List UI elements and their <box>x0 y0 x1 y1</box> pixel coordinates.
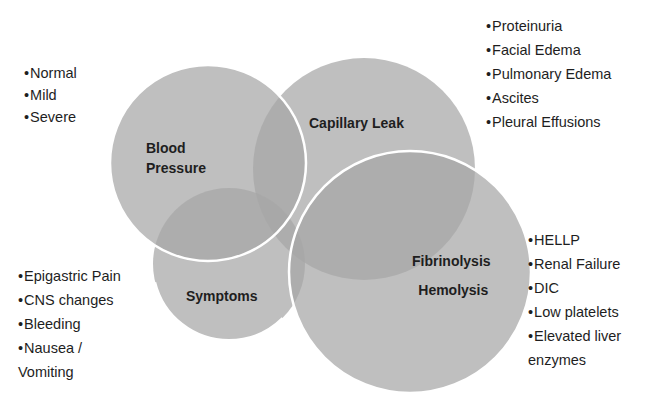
list-text: Proteinuria <box>492 18 562 34</box>
list-item: •Severe <box>24 106 77 128</box>
bullet-icon: • <box>24 109 29 125</box>
bullet-icon: • <box>486 66 491 82</box>
list-text: Nausea / <box>24 340 82 356</box>
bullet-icon: • <box>486 90 491 106</box>
list-item: •DIC <box>528 276 621 300</box>
list-item: •Ascites <box>486 86 611 110</box>
bullet-icon: • <box>18 268 23 284</box>
list-text: Normal <box>30 65 77 81</box>
label-fibrinolysis-hemolysis: Fibrinolysis Hemolysis <box>412 247 491 305</box>
list-text: Severe <box>30 109 76 125</box>
list-text: Ascites <box>492 90 539 106</box>
label-line: Symptoms <box>186 286 258 306</box>
list-text: Epigastric Pain <box>24 268 121 284</box>
list-item: •Mild <box>24 84 77 106</box>
list-item: •HELLP <box>528 228 621 252</box>
bullet-icon: • <box>486 18 491 34</box>
label-capillary-leak: Capillary Leak <box>309 113 404 133</box>
list-text: Pulmonary Edema <box>492 66 611 82</box>
list-text: DIC <box>534 280 559 296</box>
label-line: Fibrinolysis <box>412 247 491 276</box>
list-item: •Proteinuria <box>486 14 611 38</box>
bullet-icon: • <box>528 328 533 344</box>
list-text: Elevated liver <box>534 328 621 344</box>
list-text: Mild <box>30 87 57 103</box>
label-symptoms: Symptoms <box>186 286 258 306</box>
bullet-icon: • <box>18 340 23 356</box>
label-line: Capillary Leak <box>309 113 404 133</box>
bullet-icon: • <box>24 65 29 81</box>
list-item: •Elevated liver <box>528 324 621 348</box>
list-item: Vomiting <box>18 360 121 384</box>
list-text: Low platelets <box>534 304 619 320</box>
list-text: HELLP <box>534 232 580 248</box>
list-blood-pressure: •Normal •Mild •Severe <box>24 62 77 128</box>
bullet-icon: • <box>528 232 533 248</box>
bullet-icon: • <box>528 280 533 296</box>
list-text: Vomiting <box>18 364 74 380</box>
list-item: •Pulmonary Edema <box>486 62 611 86</box>
list-item: •Normal <box>24 62 77 84</box>
list-item: •Pleural Effusions <box>486 110 611 134</box>
list-text: CNS changes <box>24 292 113 308</box>
list-item: •Bleeding <box>18 312 121 336</box>
list-symptoms: •Epigastric Pain •CNS changes •Bleeding … <box>18 264 121 384</box>
bullet-icon: • <box>486 114 491 130</box>
list-item: •Low platelets <box>528 300 621 324</box>
bullet-icon: • <box>18 316 23 332</box>
label-blood-pressure: Blood Pressure <box>146 138 206 178</box>
list-fibrinolysis-hemolysis: •HELLP •Renal Failure •DIC •Low platelet… <box>528 228 621 372</box>
list-text: Facial Edema <box>492 42 581 58</box>
list-text: enzymes <box>528 352 586 368</box>
list-item: •Renal Failure <box>528 252 621 276</box>
list-item: •Epigastric Pain <box>18 264 121 288</box>
list-item: •Facial Edema <box>486 38 611 62</box>
list-text: Renal Failure <box>534 256 620 272</box>
list-text: Pleural Effusions <box>492 114 601 130</box>
bullet-icon: • <box>486 42 491 58</box>
bullet-icon: • <box>528 304 533 320</box>
bullet-icon: • <box>18 292 23 308</box>
list-capillary-leak: •Proteinuria •Facial Edema •Pulmonary Ed… <box>486 14 611 134</box>
label-line: Hemolysis <box>412 276 491 305</box>
label-line: Blood <box>146 138 206 158</box>
list-item: •CNS changes <box>18 288 121 312</box>
list-item: enzymes <box>528 348 621 372</box>
label-line: Pressure <box>146 158 206 178</box>
list-item: •Nausea / <box>18 336 121 360</box>
list-text: Bleeding <box>24 316 80 332</box>
bullet-icon: • <box>528 256 533 272</box>
bullet-icon: • <box>24 87 29 103</box>
